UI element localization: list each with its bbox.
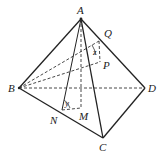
tetrahedron-diagram: A B C D Q P N M z y <box>0 0 163 165</box>
edge-BC <box>19 88 103 138</box>
label-D: D <box>147 82 156 94</box>
edge-CD <box>103 88 145 138</box>
edge-AD <box>81 19 145 88</box>
angle-label-z: z <box>92 47 97 57</box>
label-A: A <box>76 4 84 16</box>
label-B: B <box>8 82 15 94</box>
vertex-dot-B <box>18 87 20 89</box>
edge-QP <box>99 41 100 62</box>
label-Q: Q <box>104 27 112 39</box>
label-C: C <box>99 141 107 153</box>
label-N: N <box>49 114 58 126</box>
vertex-dot-A <box>80 18 83 21</box>
angle-label-y: y <box>64 98 69 108</box>
label-M: M <box>78 110 89 122</box>
edge-AN <box>62 19 81 110</box>
dashed-edges <box>19 19 145 110</box>
label-P: P <box>102 59 110 71</box>
